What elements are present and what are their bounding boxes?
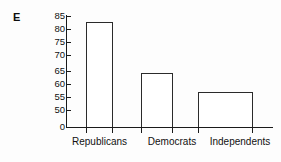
bar-democrats xyxy=(141,73,173,127)
x-axis-label-democrats: Democrats xyxy=(137,136,207,148)
y-tick-label: 85 xyxy=(54,11,65,21)
y-tick-mark xyxy=(67,29,71,30)
x-tick-mark xyxy=(141,128,142,133)
x-tick-mark xyxy=(252,128,253,133)
y-tick-label: 50 xyxy=(54,105,65,115)
y-tick-mark xyxy=(67,16,71,17)
y-tick-label: 65 xyxy=(54,66,65,76)
x-tick-mark xyxy=(198,128,199,133)
x-axis-line xyxy=(66,127,273,128)
x-tick-mark xyxy=(86,128,87,133)
bar-republicans xyxy=(86,22,113,127)
y-tick-label: 80 xyxy=(54,24,65,34)
y-tick-label: 75 xyxy=(54,37,65,47)
y-tick-label: 60 xyxy=(54,79,65,89)
y-tick-mark xyxy=(67,71,71,72)
chart-figure: E 85 80 75 70 65 60 55 50 0 Re xyxy=(0,0,281,162)
y-tick-mark xyxy=(67,42,71,43)
plot-area: 85 80 75 70 65 60 55 50 0 Republicans De… xyxy=(0,0,281,162)
y-tick-mark xyxy=(67,97,71,98)
x-axis-label-republicans: Republicans xyxy=(61,136,138,148)
y-tick-mark xyxy=(67,84,71,85)
y-tick-mark xyxy=(67,110,71,111)
x-axis-label-independents: Independents xyxy=(200,136,280,148)
y-tick-mark xyxy=(67,55,71,56)
bar-independents xyxy=(198,92,253,127)
x-tick-mark xyxy=(172,128,173,133)
y-tick-label: 0 xyxy=(60,122,65,132)
y-tick-label: 70 xyxy=(54,50,65,60)
y-tick-label: 55 xyxy=(54,92,65,102)
x-tick-mark xyxy=(112,128,113,133)
